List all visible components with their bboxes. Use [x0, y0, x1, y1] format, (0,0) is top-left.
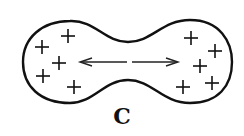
plus-charge-icon: [176, 80, 190, 94]
plus-charge-icon: [35, 40, 49, 54]
plus-charge-icon: [205, 76, 219, 90]
plus-charge-icon: [36, 69, 50, 83]
plus-charge-icon: [184, 31, 198, 45]
positive-charges: [35, 29, 222, 94]
plus-charge-icon: [61, 29, 75, 43]
plus-charge-icon: [67, 80, 81, 94]
plus-charge-icon: [193, 59, 207, 73]
repulsion-arrows: [80, 58, 178, 66]
plus-charge-icon: [208, 44, 222, 58]
figure-label: C: [0, 104, 244, 128]
fission-diagram: C: [0, 0, 244, 136]
plus-charge-icon: [52, 56, 66, 70]
